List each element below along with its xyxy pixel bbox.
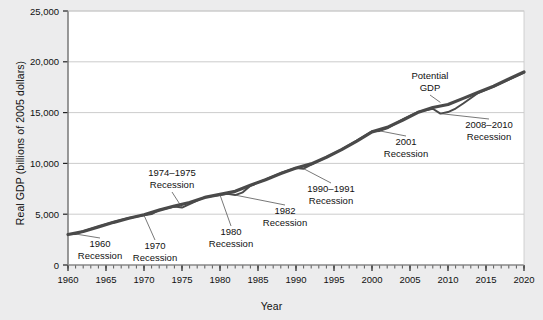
- y-tick-label: 20,000: [30, 56, 59, 67]
- y-tick-label: 10,000: [30, 158, 59, 169]
- annotation-text-line: Recession: [78, 250, 122, 261]
- annotation-text-line: Recession: [467, 131, 511, 142]
- x-tick-label: 2010: [437, 274, 458, 285]
- annotation-text-line: 1980: [220, 226, 241, 237]
- x-tick-label: 1975: [171, 274, 192, 285]
- real-gdp-line-chart: 05,00010,00015,00020,00025,000 196019651…: [0, 0, 543, 320]
- annotation-text-line: Recession: [150, 179, 194, 190]
- annotation-text-line: Recession: [384, 148, 428, 159]
- annotation-text-line: Recession: [263, 217, 307, 228]
- x-tick-label: 1995: [323, 274, 344, 285]
- y-axis-ticks: [63, 11, 68, 265]
- annotation-text-line: Potential: [412, 70, 449, 81]
- annotation-text-line: 1960: [89, 238, 110, 249]
- annotation-text-line: 1982: [274, 205, 295, 216]
- y-axis-title: Real GDP (billions of 2005 dollars): [14, 0, 26, 288]
- y-tick-label: 25,000: [30, 6, 59, 17]
- x-tick-label: 1965: [95, 274, 116, 285]
- x-tick-label: 2015: [475, 274, 496, 285]
- x-tick-label: 2005: [399, 274, 420, 285]
- annotation-recession-1974-1975: 1974–1975Recession: [148, 167, 196, 190]
- annotation-text-line: 1970: [144, 240, 165, 251]
- chart-figure: 05,00010,00015,00020,00025,000 196019651…: [0, 0, 543, 320]
- annotation-recession-2008-2010: 2008–2010Recession: [465, 119, 513, 142]
- annotation-text-line: 2008–2010: [465, 119, 513, 130]
- annotation-text-line: Recession: [209, 238, 253, 249]
- x-tick-label: 1980: [209, 274, 230, 285]
- annotation-text-line: GDP: [420, 82, 441, 93]
- annotation-text-line: Recession: [309, 195, 353, 206]
- y-tick-label: 0: [54, 260, 59, 271]
- x-axis-tick-labels: 1960196519701975198019851990199520002005…: [57, 274, 534, 285]
- annotation-text-line: Recession: [133, 252, 177, 263]
- x-tick-label: 1985: [247, 274, 268, 285]
- x-tick-label: 1970: [133, 274, 154, 285]
- x-tick-label: 2000: [361, 274, 382, 285]
- y-tick-label: 15,000: [30, 107, 59, 118]
- x-tick-label: 1990: [285, 274, 306, 285]
- y-tick-label: 5,000: [35, 209, 59, 220]
- annotation-text-line: 1990–1991: [307, 183, 355, 194]
- x-axis-title: Year: [0, 300, 543, 312]
- annotation-recession-1990-1991: 1990–1991Recession: [307, 183, 355, 206]
- annotation-text-line: 1974–1975: [148, 167, 196, 178]
- annotation-text-line: 2001: [395, 136, 416, 147]
- y-axis-tick-labels: 05,00010,00015,00020,00025,000: [30, 6, 59, 271]
- x-tick-label: 2020: [513, 274, 534, 285]
- x-tick-label: 1960: [57, 274, 78, 285]
